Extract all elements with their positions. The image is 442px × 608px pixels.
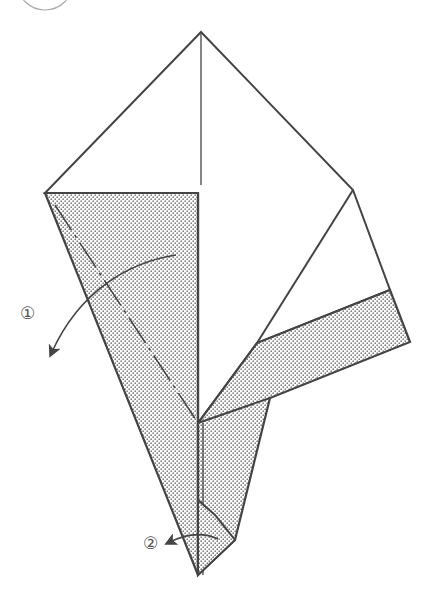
step-1-label: ① (20, 303, 35, 323)
origami-diagram: ① ② (0, 0, 442, 608)
step-2-label: ② (143, 533, 158, 553)
step-number-circle (17, 0, 73, 10)
left-shaded-flap (45, 193, 198, 575)
